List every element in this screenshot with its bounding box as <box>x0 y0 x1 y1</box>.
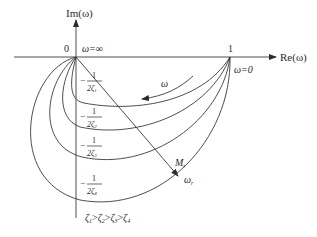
svg-text:2ζ3: 2ζ3 <box>87 149 97 158</box>
intercept-zeta4: − 1 2ζ4 <box>80 174 102 196</box>
nyquist-curve-zeta3 <box>50 57 230 160</box>
svg-text:−: − <box>80 140 85 150</box>
y-axis-label: Im(ω) <box>66 7 93 20</box>
nyquist-curve-zeta1 <box>72 57 230 106</box>
mr-label: Mr <box>174 157 186 169</box>
intercept-zeta3: − 1 2ζ3 <box>80 136 102 158</box>
svg-text:1: 1 <box>92 71 96 80</box>
damping-relation: ζ1>ζ2>ζ3>ζ4 <box>85 212 130 224</box>
nyquist-diagram: Im(ω) Re(ω) 0 1 ω=∞ ω=0 ω Mr ωr − 1 2ζ1 … <box>0 0 317 237</box>
svg-text:−: − <box>80 178 85 188</box>
omega-r-label: ωr <box>184 174 194 186</box>
svg-text:−: − <box>80 75 85 85</box>
svg-text:1: 1 <box>92 136 96 145</box>
intercept-zeta2: − 1 2ζ2 <box>80 107 102 129</box>
omega-zero-label: ω=0 <box>234 64 253 75</box>
svg-text:−: − <box>80 111 85 121</box>
svg-text:2ζ2: 2ζ2 <box>87 120 97 129</box>
omega-inf-label: ω=∞ <box>82 43 103 54</box>
origin-label: 0 <box>64 43 69 54</box>
x-axis-label: Re(ω) <box>280 51 307 64</box>
svg-text:1: 1 <box>92 107 96 116</box>
omega-direction-label: ω <box>161 78 168 89</box>
nyquist-curve-zeta4 <box>31 57 230 202</box>
unit-point-label: 1 <box>228 43 233 54</box>
svg-text:2ζ1: 2ζ1 <box>87 84 97 93</box>
svg-text:2ζ4: 2ζ4 <box>87 187 97 196</box>
svg-text:1: 1 <box>92 174 96 183</box>
